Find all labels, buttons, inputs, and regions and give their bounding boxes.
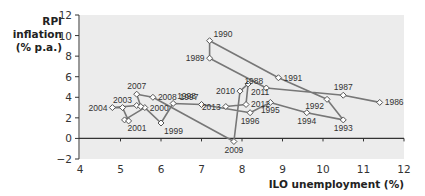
x-tick-label: 6 bbox=[158, 163, 165, 175]
year-label: 1993 bbox=[334, 123, 353, 133]
year-label: 2003 bbox=[113, 95, 132, 105]
year-label: 2008 bbox=[158, 92, 177, 102]
year-label: 1990 bbox=[214, 29, 233, 39]
year-label: 1996 bbox=[241, 116, 260, 126]
year-label: 2011 bbox=[251, 87, 270, 97]
y-tick-label: 12 bbox=[59, 9, 72, 21]
year-label: 1994 bbox=[297, 116, 316, 126]
year-label: 2010 bbox=[216, 86, 235, 96]
year-label: 1991 bbox=[283, 73, 302, 83]
x-tick-label: 5 bbox=[117, 163, 124, 175]
x-tick-label: 7 bbox=[198, 163, 205, 175]
year-label: 1987 bbox=[334, 82, 353, 92]
x-tick-label: 12 bbox=[397, 163, 410, 175]
year-label: 1989 bbox=[186, 53, 205, 63]
year-label: 2000 bbox=[150, 103, 169, 113]
year-label: 2012 bbox=[251, 99, 270, 109]
y-tick-label: 2 bbox=[65, 112, 72, 124]
x-tick-label: 4 bbox=[77, 163, 84, 175]
year-label: 1999 bbox=[164, 126, 183, 136]
year-label: 2007 bbox=[127, 81, 146, 91]
y-tick-label: 8 bbox=[65, 50, 72, 62]
y-tick-label: 0 bbox=[65, 132, 72, 144]
x-axis-title: ILO unemployment (%) bbox=[269, 178, 404, 190]
x-tick-label: 11 bbox=[357, 163, 370, 175]
y-axis-title-line: (% p.a.) bbox=[16, 41, 62, 53]
year-label: 1998 bbox=[177, 91, 196, 101]
y-tick-label: 6 bbox=[65, 71, 72, 83]
year-label: 1988 bbox=[244, 76, 263, 86]
year-label: 2009 bbox=[224, 145, 243, 155]
y-axis-title: RPIinflation(% p.a.) bbox=[13, 15, 62, 53]
connected-scatter-chart: RPIinflation(% p.a.) −2024681012 4567891… bbox=[0, 0, 425, 196]
y-tick-label: −2 bbox=[57, 153, 72, 165]
year-label: 1986 bbox=[385, 97, 404, 107]
y-tick-label: 4 bbox=[65, 91, 72, 103]
y-tick-label: 10 bbox=[59, 30, 72, 42]
x-tick-label: 10 bbox=[316, 163, 329, 175]
year-label: 2001 bbox=[128, 123, 147, 133]
year-label: 2004 bbox=[88, 103, 107, 113]
y-axis: −2024681012 bbox=[57, 9, 79, 165]
x-tick-label: 9 bbox=[279, 163, 286, 175]
x-tick-label: 8 bbox=[239, 163, 246, 175]
year-label: 2013 bbox=[202, 102, 221, 112]
y-axis-title-line: inflation bbox=[13, 28, 62, 40]
year-label: 1992 bbox=[305, 101, 324, 111]
